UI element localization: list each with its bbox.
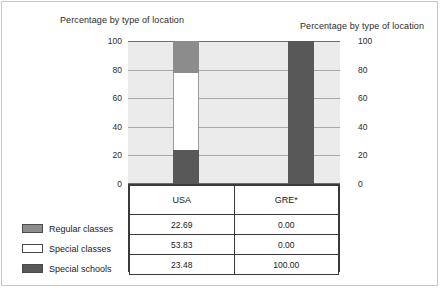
legend-item: Special schools [22, 259, 128, 278]
table-cell: 22.69 [130, 215, 235, 235]
tick-label-right-100: 100 [358, 36, 384, 46]
tick-label-left-0: 0 [96, 179, 122, 189]
table-header-row: USAGRE* [130, 186, 339, 215]
tick-label-right-60: 60 [358, 93, 384, 103]
bar-segment-regular-classes [173, 41, 199, 73]
chart-figure: Percentage by type of location Percentag… [0, 0, 441, 289]
chart-title-right: Percentage by type of location [300, 21, 424, 31]
bar-segment-special-classes [173, 73, 199, 150]
tick-label-left-100: 100 [96, 36, 122, 46]
table-row: 53.830.00 [130, 235, 339, 255]
table-cell: 0.00 [234, 215, 339, 235]
tick-label-right-40: 40 [358, 122, 384, 132]
legend-swatch-icon [22, 264, 43, 273]
legend-label: Regular classes [49, 224, 113, 234]
chart-legend: Regular classesSpecial classesSpecial sc… [22, 219, 128, 278]
tick-label-left-20: 20 [96, 150, 122, 160]
table-cell: 0.00 [234, 235, 339, 255]
legend-label: Special classes [49, 244, 111, 254]
bar-usa [173, 41, 199, 184]
data-table: USAGRE*22.690.0053.830.0023.48100.00 [128, 184, 340, 272]
legend-swatch-icon [22, 244, 43, 253]
bar-segment-special-schools [173, 150, 199, 184]
tick-label-right-20: 20 [358, 150, 384, 160]
bar-gre [288, 41, 314, 184]
legend-swatch-icon [22, 224, 43, 233]
legend-label: Special schools [49, 264, 112, 274]
table-cell: 100.00 [234, 255, 339, 275]
tick-label-left-60: 60 [96, 93, 122, 103]
table-column-header: GRE* [234, 186, 339, 215]
tick-label-right-0: 0 [358, 179, 384, 189]
tick-label-right-80: 80 [358, 65, 384, 75]
tick-label-left-80: 80 [96, 65, 122, 75]
legend-item: Special classes [22, 239, 128, 258]
table-row: 22.690.00 [130, 215, 339, 235]
chart-title-left: Percentage by type of location [60, 15, 184, 25]
table-cell: 53.83 [130, 235, 235, 255]
bar-segment-special-schools [288, 41, 314, 184]
table-column-header: USA [130, 186, 235, 215]
tick-label-left-40: 40 [96, 122, 122, 132]
plot-area [128, 41, 340, 184]
legend-item: Regular classes [22, 219, 128, 238]
table-cell: 23.48 [130, 255, 235, 275]
table-row: 23.48100.00 [130, 255, 339, 275]
